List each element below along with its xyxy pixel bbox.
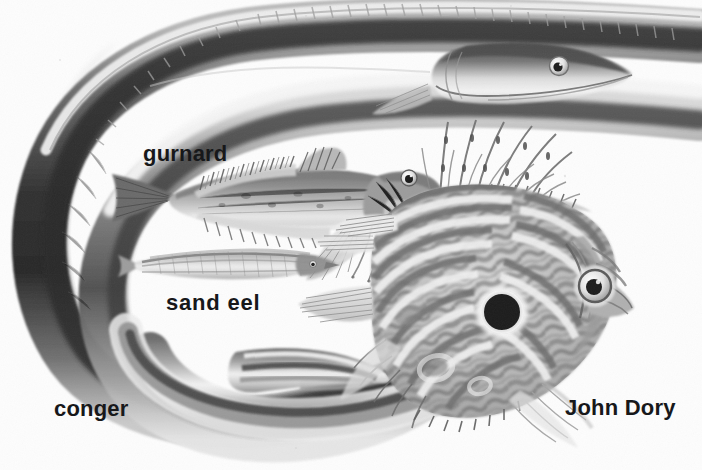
label-gurnard: gurnard [143,141,228,167]
label-john-dory: John Dory [565,395,676,421]
illustration-plate: gurnard sand eel conger John Dory [0,0,702,470]
label-conger: conger [54,396,129,422]
label-sand-eel: sand eel [166,290,260,316]
